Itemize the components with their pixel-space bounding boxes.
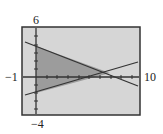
plot-area xyxy=(0,0,163,134)
